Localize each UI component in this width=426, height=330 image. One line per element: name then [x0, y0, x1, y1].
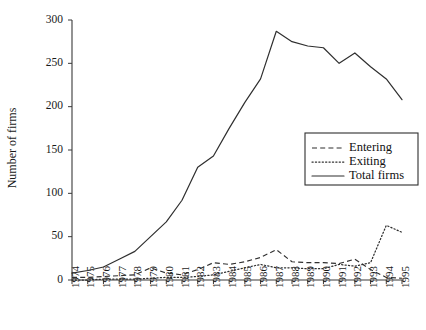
x-axis-tick-label: 1983 — [210, 266, 222, 289]
x-axis-tick-label: 1984 — [226, 266, 238, 289]
x-axis-tick-label: 1992 — [351, 266, 363, 288]
chart-legend: Entering Exiting Total firms — [305, 133, 418, 185]
x-axis-tick-label: 1991 — [336, 266, 348, 288]
x-axis-tick-label: 1978 — [131, 266, 143, 289]
x-axis-tick-label: 1980 — [163, 266, 175, 289]
line-chart-canvas: 050100150200250300 197419751976197719781… — [0, 0, 426, 330]
x-axis-tick-label: 1987 — [273, 266, 285, 289]
y-axis-tick-group: 050100150200250300 — [46, 13, 72, 285]
x-axis-tick-label: 1977 — [116, 266, 128, 289]
y-axis-tick-label: 100 — [46, 186, 64, 198]
legend-label-entering: Entering — [349, 140, 393, 154]
legend-label-total-firms: Total firms — [349, 168, 404, 182]
legend-label-exiting: Exiting — [349, 154, 387, 168]
y-axis-tick-label: 150 — [46, 143, 64, 155]
y-axis-tick-label: 200 — [46, 99, 64, 111]
x-axis-tick-label: 1985 — [241, 266, 253, 289]
x-axis-tick-label: 1986 — [257, 266, 269, 289]
y-axis-tick-label: 250 — [46, 56, 64, 68]
y-axis-title: Number of firms — [5, 107, 19, 188]
x-axis-tick-label: 1995 — [399, 266, 411, 289]
y-axis-tick-label: 0 — [57, 273, 63, 285]
chart-figure: 050100150200250300 197419751976197719781… — [0, 0, 426, 330]
x-axis-tick-label: 1982 — [194, 266, 206, 288]
x-axis-tick-label: 1974 — [69, 266, 81, 289]
x-axis-tick-label: 1988 — [289, 266, 301, 289]
y-axis-tick-label: 300 — [46, 13, 64, 25]
y-axis-tick-label: 50 — [52, 229, 64, 241]
